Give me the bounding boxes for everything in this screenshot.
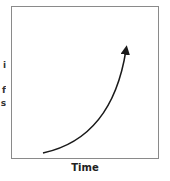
growth-curve [0, 0, 170, 181]
x-axis-label: Time [0, 162, 170, 173]
